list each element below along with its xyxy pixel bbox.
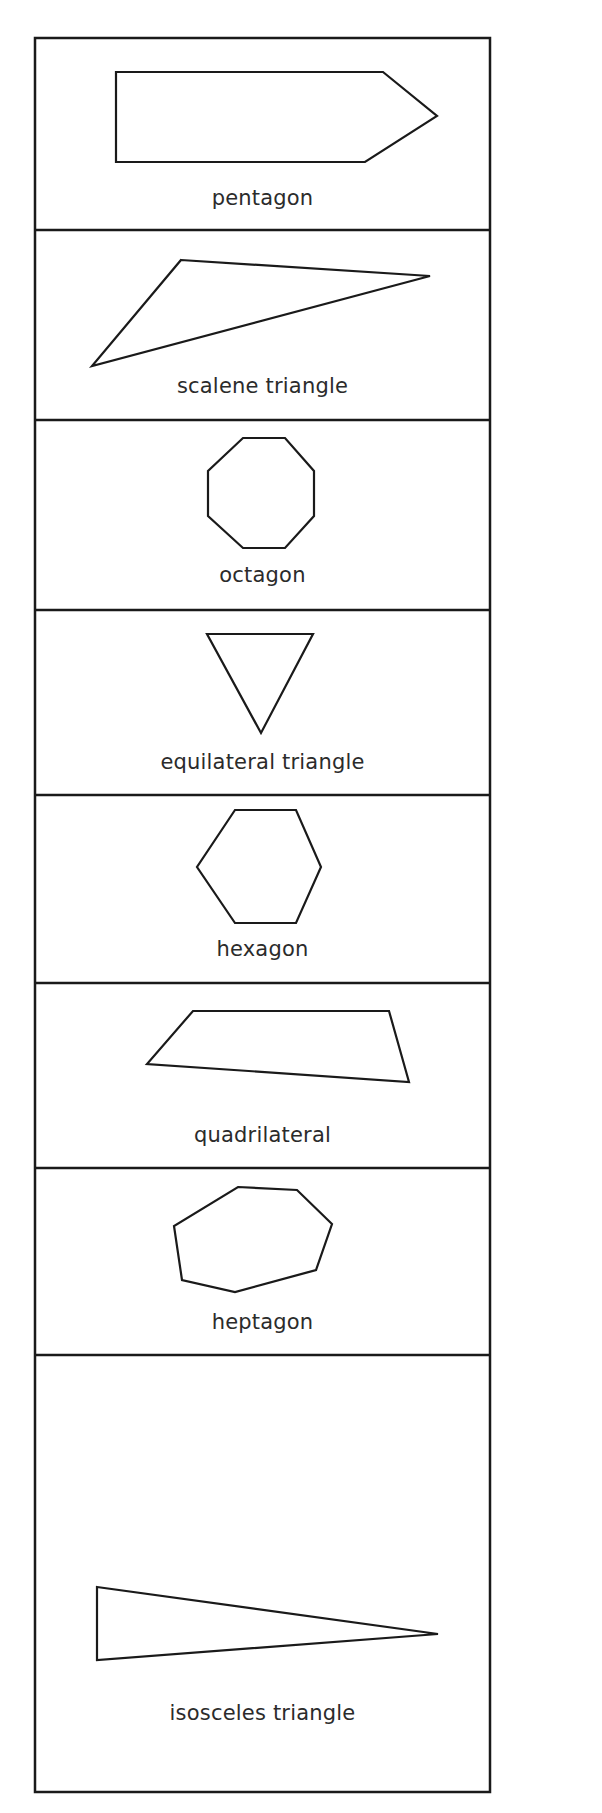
label-heptagon: heptagon — [35, 1310, 490, 1334]
label-octagon: octagon — [35, 563, 490, 587]
shapes — [92, 72, 438, 1660]
label-scalene-triangle: scalene triangle — [35, 374, 490, 398]
outer-border — [35, 38, 490, 1792]
label-equilateral-triangle: equilateral triangle — [35, 750, 490, 774]
isosceles-triangle-shape — [97, 1587, 438, 1660]
label-isosceles-triangle: isosceles triangle — [35, 1701, 490, 1725]
quadrilateral-shape — [147, 1011, 409, 1082]
label-pentagon: pentagon — [35, 186, 490, 210]
label-quadrilateral: quadrilateral — [35, 1123, 490, 1147]
shape-chart — [0, 0, 602, 1813]
row-dividers — [35, 230, 490, 1355]
hexagon-shape — [197, 810, 321, 923]
heptagon-shape — [174, 1187, 332, 1292]
scalene-triangle-shape — [92, 260, 430, 366]
octagon-shape — [208, 438, 314, 548]
equilateral-triangle-shape — [207, 634, 313, 733]
label-hexagon: hexagon — [35, 937, 490, 961]
pentagon-shape — [116, 72, 437, 162]
